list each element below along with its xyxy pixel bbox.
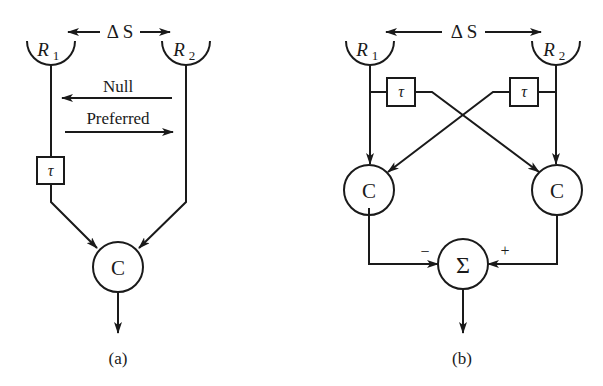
correlator-a: C [93,242,143,292]
panel-caption: (b) [452,349,472,368]
delay-label: τ [521,83,528,100]
sign-minus-label: − [420,243,429,260]
delay-box-left-b: τ [387,78,415,106]
null-label: Null [103,77,134,96]
receptor-subscript: 1 [53,48,60,63]
receptor-r2-b: R 2 [532,39,580,65]
correlator-label: C [111,256,125,280]
receptor-cup-icon [162,41,210,65]
panel-caption: (a) [109,349,128,368]
panel-a: Δ S R 1 R 2 τ Null Preferred [27,21,210,368]
correlator-right-b: C [532,165,582,215]
receptor-r1-a: R 1 [27,39,75,65]
delta-s-label: Δ S [451,21,478,42]
separation-indicator-a: Δ S [68,21,170,42]
receptor-subscript: 1 [372,48,379,63]
receptor-cup-icon [532,41,580,65]
receptor-cup-icon [27,41,75,65]
delay-box-a: τ [37,157,64,184]
signal-line-to-sum [488,215,557,264]
receptor-label: R [172,39,185,60]
receptor-label: R [355,39,368,60]
receptor-subscript: 2 [559,48,566,63]
delta-s-label: Δ S [107,21,134,42]
correlator-label: C [550,179,564,203]
correlator-label: C [362,179,376,203]
null-direction: Null [62,77,172,98]
receptor-cup-icon [346,41,394,65]
separation-indicator-b: Δ S [386,21,541,42]
sign-plus-label: + [500,242,509,259]
receptor-label: R [542,39,555,60]
receptor-label: R [36,39,49,60]
signal-line-to-correlator [139,65,186,248]
reichardt-detector-diagram: Δ S R 1 R 2 τ Null Preferred [0,0,603,386]
panel-b: Δ S R 1 R 2 τ τ [344,21,582,368]
signal-line-to-correlator [51,184,97,248]
summation-b: Σ [438,239,488,289]
correlator-left-b: C [344,165,394,215]
summation-label: Σ [456,252,470,278]
delay-label: τ [48,162,55,179]
delay-box-right-b: τ [510,78,538,106]
receptor-subscript: 2 [189,48,196,63]
preferred-label: Preferred [86,109,150,128]
delay-label: τ [398,83,405,100]
preferred-direction: Preferred [65,109,173,132]
receptor-r2-a: R 2 [162,39,210,65]
receptor-r1-b: R 1 [346,39,394,65]
